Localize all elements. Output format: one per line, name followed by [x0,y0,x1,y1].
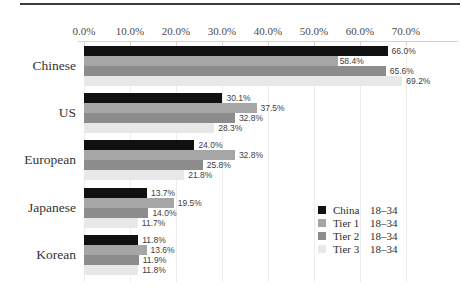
bar-value-label: 14.0% [152,208,176,218]
bar-tier-1 [84,103,257,113]
bar-value-label: 21.8% [188,170,212,180]
x-axis-tick-label: 50.0% [300,25,328,37]
bar-china [84,188,147,198]
x-axis-tick-label: 0.0% [73,25,96,37]
bar-china [84,235,138,245]
category-label: European [0,152,76,168]
bar-value-label: 37.5% [261,103,285,113]
category-label: Korean [0,247,76,263]
bar-value-label: 11.9% [143,255,166,265]
chart-page: 0.0%10.0%20.0%30.0%40.0%50.0%60.0%70.0% … [0,0,462,297]
bar-tier-2 [84,160,203,170]
legend-series-name: Tier 3 [333,243,370,255]
bar-china [84,46,388,56]
tick-mark [176,41,177,45]
bar-china [84,140,194,150]
bar-tier-3 [84,170,184,180]
bar-value-label: 66.0% [392,46,416,56]
bar-value-label: 69.2% [406,76,430,86]
legend-series-range: 18–34 [370,217,398,229]
bar-value-label: 25.8% [207,160,231,170]
bar-tier-1 [84,56,353,66]
bar-value-label: 19.5% [178,198,202,208]
x-axis-tick-label: 60.0% [346,25,374,37]
bar-value-label: 11.7% [142,218,165,228]
tick-mark [314,41,315,45]
top-rule-divider [20,3,460,5]
bar-value-label: 28.3% [218,123,242,133]
legend-swatch [318,219,326,227]
bar-value-label: 32.8% [239,150,263,160]
x-axis-tick-label: 10.0% [116,25,144,37]
legend-series-name: Tier 1 [333,217,370,229]
legend-item: Tier 318–34 [318,242,398,255]
legend-item: China18–34 [318,203,398,216]
bar-tier-3 [84,265,138,275]
bar-tier-3 [84,76,402,86]
bar-value-label: 30.1% [226,93,250,103]
bar-value-label: 58.4% [338,56,366,66]
category-label: US [0,105,76,121]
bar-tier-2 [84,113,235,123]
bar-china [84,93,222,103]
bar-tier-1 [84,245,147,255]
legend-item: Tier 118–34 [318,216,398,229]
tick-mark [406,41,407,45]
bar-value-label: 24.0% [198,140,222,150]
tick-mark [84,41,85,45]
legend-series-range: 18–34 [370,230,398,242]
legend-series-name: Tier 2 [333,230,370,242]
bar-value-label: 13.7% [151,188,175,198]
bar-value-label: 13.6% [151,245,175,255]
x-axis-tick-label: 30.0% [208,25,236,37]
category-label: Chinese [0,58,76,74]
legend-swatch [318,245,326,253]
chart-legend: China18–34Tier 118–34Tier 218–34Tier 318… [318,203,398,255]
tick-mark [360,41,361,45]
legend-swatch [318,206,326,214]
bar-tier-3 [84,218,138,228]
bar-tier-2 [84,208,148,218]
bar-tier-2 [84,255,139,265]
tick-mark [268,41,269,45]
legend-swatch [318,232,326,240]
x-axis-tick-label: 40.0% [254,25,282,37]
legend-series-name: China [333,204,370,216]
legend-series-range: 18–34 [370,204,398,216]
bar-tier-1 [84,150,235,160]
bar-value-label: 65.6% [390,66,414,76]
bar-value-label: 11.8% [142,265,165,275]
legend-item: Tier 218–34 [318,229,398,242]
legend-series-range: 18–34 [370,243,398,255]
bar-value-label: 32.8% [239,113,263,123]
x-axis-tick-label: 20.0% [162,25,190,37]
bar-value-label: 11.8% [142,235,165,245]
bar-tier-3 [84,123,214,133]
bar-tier-2 [84,66,386,76]
bar-tier-1 [84,198,174,208]
x-axis-tick-label: 70.0% [392,25,420,37]
category-label: Japanese [0,200,76,216]
tick-mark [130,41,131,45]
tick-mark [222,41,223,45]
